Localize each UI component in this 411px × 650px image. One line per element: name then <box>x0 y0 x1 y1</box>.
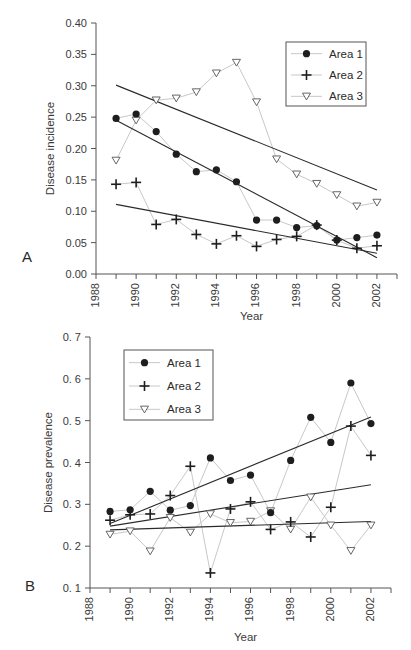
data-point <box>207 454 214 461</box>
data-point <box>373 231 380 238</box>
data-point <box>307 494 315 501</box>
data-point <box>167 507 174 514</box>
data-point <box>353 203 361 210</box>
x-tick-label: 1994 <box>209 283 221 307</box>
data-point <box>253 99 261 106</box>
data-point <box>225 504 235 514</box>
x-tick-label: 1994 <box>203 597 215 621</box>
data-point <box>186 529 194 536</box>
y-tick-label: 0. 6 <box>63 373 81 385</box>
data-point <box>205 568 215 578</box>
data-point <box>185 461 195 471</box>
data-point <box>112 157 120 164</box>
data-point <box>367 420 374 427</box>
data-point <box>293 171 301 178</box>
x-tick-label: 1996 <box>243 597 255 621</box>
data-point <box>347 548 355 555</box>
x-tick-label: 2002 <box>364 597 376 621</box>
data-point <box>273 216 280 223</box>
data-point <box>266 524 276 534</box>
data-point <box>372 241 382 251</box>
data-point <box>367 522 375 529</box>
x-tick-label: 1998 <box>290 283 302 307</box>
data-point <box>333 192 341 199</box>
data-point <box>151 219 161 229</box>
x-axis-title: Year <box>240 310 263 322</box>
data-point <box>105 515 115 525</box>
data-point <box>192 89 200 96</box>
data-point <box>353 234 360 241</box>
data-point <box>153 128 160 135</box>
x-tick-label: 1990 <box>123 597 135 621</box>
data-point <box>332 235 342 245</box>
data-point <box>272 234 282 244</box>
chart-panel-b: 0. 10. 20. 30. 40. 50. 60. 7198819901992… <box>25 331 391 643</box>
data-point <box>131 177 141 187</box>
x-tick-label: 1998 <box>284 597 296 621</box>
data-point <box>246 497 256 507</box>
y-tick-label: 0.35 <box>66 48 87 60</box>
legend-marker-icon <box>141 359 148 366</box>
legend-label: Area 3 <box>167 403 201 415</box>
y-tick-label: 0.10 <box>66 205 87 217</box>
trend-line-area-2 <box>116 204 377 253</box>
legend-label: Area 2 <box>167 380 201 392</box>
data-point <box>193 168 200 175</box>
data-point <box>252 241 262 251</box>
data-point <box>146 548 154 555</box>
legend: Area 1Area 2Area 3 <box>286 42 366 106</box>
data-point <box>326 502 336 512</box>
legend-label: Area 1 <box>167 357 201 369</box>
y-tick-label: 0.40 <box>66 17 87 29</box>
data-point <box>213 166 220 173</box>
y-tick-label: 0. 5 <box>63 415 81 427</box>
data-point <box>347 379 354 386</box>
y-tick-label: 0.30 <box>66 80 87 92</box>
data-point <box>253 216 260 223</box>
legend-marker-icon <box>303 50 310 57</box>
data-point <box>112 115 119 122</box>
data-point <box>287 526 295 533</box>
x-tick-label: 1996 <box>249 283 261 307</box>
legend-label: Area 3 <box>329 90 363 102</box>
data-point <box>286 517 296 527</box>
data-point <box>232 59 240 66</box>
y-tick-label: 0.05 <box>66 237 87 249</box>
data-point <box>346 421 356 431</box>
panel-label: A <box>22 248 32 265</box>
y-tick-label: 0.15 <box>66 174 87 186</box>
data-point <box>233 178 240 185</box>
y-tick-label: 0.25 <box>66 111 87 123</box>
x-tick-label: 1988 <box>89 283 101 307</box>
legend-label: Area 1 <box>329 48 363 60</box>
x-tick-label: 1990 <box>129 283 141 307</box>
y-tick-label: 0. 2 <box>63 540 81 552</box>
data-point <box>187 502 194 509</box>
x-tick-label: 1992 <box>163 597 175 621</box>
data-point <box>313 180 321 187</box>
panel-label: B <box>25 577 35 594</box>
data-point <box>327 522 335 529</box>
data-point <box>173 151 180 158</box>
data-point <box>132 117 140 124</box>
data-point <box>211 239 221 249</box>
data-point <box>106 508 113 515</box>
data-point <box>191 229 201 239</box>
data-point <box>327 439 334 446</box>
y-tick-label: 0. 1 <box>63 582 81 594</box>
y-tick-label: 0. 7 <box>63 331 81 343</box>
legend: Area 1Area 2Area 3 <box>124 350 213 420</box>
data-point <box>293 224 300 231</box>
figure-canvas: 0.000.050.100.150.200.250.300.350.401988… <box>0 0 411 650</box>
x-tick-label: 1988 <box>83 597 95 621</box>
data-point <box>307 414 314 421</box>
data-point <box>306 532 316 542</box>
data-point <box>292 231 302 241</box>
y-axis-title: Disease incidence <box>44 102 56 195</box>
data-point <box>227 477 234 484</box>
y-tick-label: 0. 4 <box>63 457 81 469</box>
data-point <box>106 531 114 538</box>
data-point <box>366 450 376 460</box>
y-axis-title: Disease prevalence <box>42 412 54 513</box>
chart-panel-a: 0.000.050.100.150.200.250.300.350.401988… <box>22 17 397 322</box>
